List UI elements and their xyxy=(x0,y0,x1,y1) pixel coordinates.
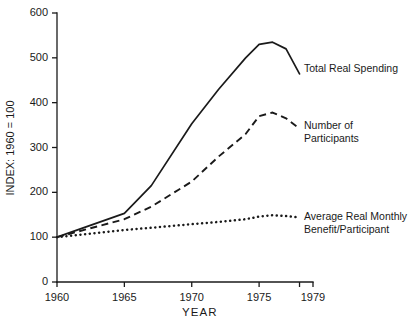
x-axis-tick-label: 1975 xyxy=(243,291,275,303)
series-label-average-real-monthly-benefit: Average Real Monthly Benefit/Participant xyxy=(304,210,407,235)
chart-plot-area: INDEX: 1960 = 100 xyxy=(0,0,408,328)
x-axis-tick-label: 1979 xyxy=(297,291,329,303)
y-axis-tick-label: 500 xyxy=(0,51,48,63)
y-axis-tick-label: 400 xyxy=(0,96,48,108)
x-axis-title: YEAR xyxy=(182,306,218,318)
series-line-number-of-participants xyxy=(57,113,300,238)
series-label-total-real-spending: Total Real Spending xyxy=(304,62,398,75)
y-axis-ticks xyxy=(52,13,57,282)
x-axis-tick-label: 1960 xyxy=(41,291,73,303)
y-axis-tick-label: 200 xyxy=(0,185,48,197)
series-group xyxy=(57,42,300,237)
y-axis-tick-label: 300 xyxy=(0,141,48,153)
x-axis-tick-label: 1965 xyxy=(108,291,140,303)
series-line-average-real-monthly-benefit xyxy=(57,215,300,237)
axes-group xyxy=(52,13,313,287)
chart-container: INDEX: 1960 = 100 0100200300400500600 19… xyxy=(0,0,408,328)
x-axis-ticks xyxy=(57,282,313,287)
series-label-number-of-participants: Number of Participants xyxy=(304,119,408,144)
y-axis-tick-label: 0 xyxy=(0,275,48,287)
y-axis-tick-label: 100 xyxy=(0,230,48,242)
x-axis-tick-label: 1970 xyxy=(176,291,208,303)
y-axis-tick-label: 600 xyxy=(0,6,48,18)
series-line-total-real-spending xyxy=(57,42,300,237)
